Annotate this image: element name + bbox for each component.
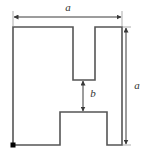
dimension-label-width-a: a	[65, 1, 71, 13]
figure-container: a a b	[0, 0, 148, 155]
dimension-gap-b: b	[83, 81, 96, 111]
dimension-label-height-a: a	[134, 79, 140, 91]
notched-square-figure: a a b	[0, 0, 148, 155]
cross-section-outline	[13, 27, 122, 145]
dimension-width-a: a	[13, 1, 122, 27]
origin-marker	[11, 143, 16, 148]
dimension-label-gap-b: b	[90, 87, 96, 99]
dimension-height-a: a	[122, 27, 140, 145]
